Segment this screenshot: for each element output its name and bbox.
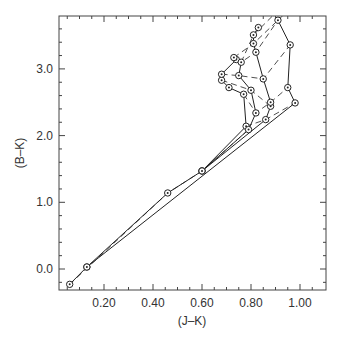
series-layer (67, 16, 299, 288)
data-point-center (255, 51, 257, 53)
data-point-center (262, 78, 264, 80)
data-point-center (287, 87, 289, 89)
data-point-center (255, 112, 257, 114)
chart: 0.200.400.600.801.000.01.02.03.0 (J–K) (… (0, 0, 343, 339)
data-point-center (294, 102, 296, 104)
x-tick-label: 1.00 (288, 296, 312, 310)
data-point-center (252, 34, 254, 36)
x-axis-label: (J–K) (178, 314, 207, 328)
data-point-center (221, 73, 223, 75)
data-point-center (277, 19, 279, 21)
data-point-center (248, 129, 250, 131)
data-point-center (270, 101, 272, 103)
data-point-center (289, 44, 291, 46)
data-point-center (240, 61, 242, 63)
data-point-center (201, 170, 203, 172)
data-point-center (69, 283, 71, 285)
ticks-layer: 0.200.400.600.801.000.01.02.03.0 (36, 16, 326, 310)
plot-frame (59, 16, 326, 290)
data-point-center (250, 89, 252, 91)
x-tick-label: 0.20 (92, 296, 116, 310)
x-tick-label: 0.40 (141, 296, 165, 310)
y-tick-label: 1.0 (36, 195, 53, 209)
data-point-center (265, 119, 267, 121)
series-track-a (70, 58, 246, 285)
data-point-center (86, 266, 88, 268)
y-tick-label: 3.0 (36, 62, 53, 76)
data-point-center (257, 27, 259, 29)
data-point-center (238, 75, 240, 77)
series-track-d (87, 20, 295, 267)
data-point-center (228, 87, 230, 89)
data-point-center (243, 93, 245, 95)
y-tick-label: 2.0 (36, 129, 53, 143)
x-tick-label: 0.60 (190, 296, 214, 310)
data-point-center (167, 192, 169, 194)
data-point-center (221, 79, 223, 81)
x-tick-label: 0.80 (239, 296, 263, 310)
y-tick-label: 0.0 (36, 262, 53, 276)
data-point-center (233, 57, 235, 59)
y-axis-label: (B–K) (13, 138, 27, 169)
data-point-center (252, 43, 254, 45)
